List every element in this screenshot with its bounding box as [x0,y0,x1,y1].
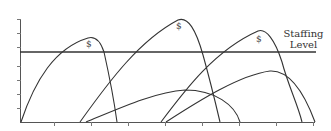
curve-project-2 [80,19,220,122]
curve-project-5 [166,71,315,122]
dollar-mark-1: $ [86,39,92,49]
dollar-mark-3: $ [256,34,262,44]
dollar-mark-2: $ [176,21,182,31]
curve-project-1 [21,38,117,122]
staffing-level-label: Staffing Level [276,28,331,50]
curve-project-3 [86,90,240,122]
staffing-label-line1: Staffing [276,28,331,39]
staffing-label-line2: Level [276,39,331,50]
staffing-diagram [0,0,331,131]
